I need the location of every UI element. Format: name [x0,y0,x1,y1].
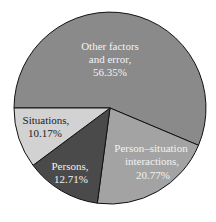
label-persons-line1: Persons, [52,160,89,172]
label-other-line2: and error, [89,53,132,65]
label-other-value: 56.35% [93,66,127,78]
label-interactions-line2: interactions, [125,155,179,167]
label-other-line1: Other factors [81,40,139,52]
pie-chart: Other factors and error, 56.35% Person–s… [0,0,216,222]
label-interactions-value: 20.77% [136,169,170,181]
label-situations-value: 10.17% [28,127,62,139]
label-situations-line1: Situations, [23,114,70,126]
label-interactions-line1: Person–situation [114,142,188,154]
label-persons-value: 12.71% [54,173,88,185]
